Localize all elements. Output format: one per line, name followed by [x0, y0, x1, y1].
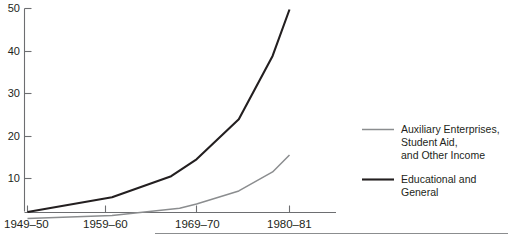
y-tick-label-30: 30: [8, 87, 20, 99]
x-tick-label-1980-81: 1980–81: [267, 218, 312, 230]
legend-entry-auxiliary-enterprises: Auxiliary Enterprises, Student Aid, and …: [362, 123, 500, 161]
chart-svg: 50 40 30 20 10 1949–50 1959–60 1969–70 1…: [0, 0, 508, 240]
x-tick-label-1969-70: 1969–70: [175, 218, 220, 230]
line-chart-figure: 50 40 30 20 10 1949–50 1959–60 1969–70 1…: [0, 0, 508, 240]
legend-label-educational-line-1: Educational and: [401, 173, 476, 185]
series-line-auxiliary-enterprises: [28, 155, 290, 218]
chart-legend: Auxiliary Enterprises, Student Aid, and …: [362, 123, 500, 198]
legend-label-auxiliary-line-2: Student Aid,: [401, 136, 458, 148]
y-tick-label-10: 10: [8, 172, 20, 184]
legend-label-auxiliary-line-1: Auxiliary Enterprises,: [401, 123, 500, 135]
plot-area: [28, 10, 290, 219]
legend-label-educational-line-2: General: [401, 186, 438, 198]
x-tick-label-1949-50: 1949–50: [4, 218, 49, 230]
y-axis: 50 40 30 20 10: [8, 2, 32, 212]
x-tick-label-1959-60: 1959–60: [83, 218, 128, 230]
y-tick-label-50: 50: [8, 2, 20, 14]
y-tick-label-40: 40: [8, 45, 20, 57]
series-line-educational-and-general: [28, 10, 290, 213]
legend-entry-educational-and-general: Educational and General: [362, 173, 476, 198]
y-tick-label-20: 20: [8, 130, 20, 142]
legend-label-auxiliary-line-3: and Other Income: [401, 149, 485, 161]
